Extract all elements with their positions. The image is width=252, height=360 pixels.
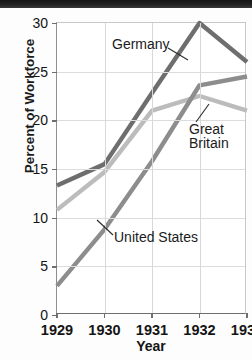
y-axis-tick <box>52 266 57 267</box>
y-axis-tick-label: 25 <box>32 64 48 80</box>
y-axis-tick-label: 20 <box>32 112 48 128</box>
y-axis-tick <box>52 169 57 170</box>
y-axis-tick <box>52 72 57 73</box>
y-axis-tick-label: 0 <box>40 307 48 323</box>
x-axis-tick <box>104 313 105 318</box>
leader-line-germany <box>168 45 194 63</box>
chart-page: Percent of Workforce 0510152025301929193… <box>0 0 252 360</box>
y-axis-tick-label: 30 <box>32 15 48 31</box>
plot-area: 05101520253019291930193119321933 <box>56 22 246 314</box>
y-axis-tick <box>52 23 57 24</box>
y-axis-tick-label: 15 <box>32 161 48 177</box>
x-axis-tick <box>246 313 247 318</box>
gridline-horizontal <box>57 72 245 73</box>
gridline-vertical <box>152 23 153 313</box>
gridline-vertical <box>200 23 201 313</box>
annotation-germany: Germany <box>112 37 170 51</box>
y-axis-tick-label: 5 <box>40 258 48 274</box>
annotation-great-britain-line2: Britain <box>189 135 229 151</box>
y-axis-tick-label: 10 <box>32 210 48 226</box>
x-axis-tick-label: 1929 <box>41 322 73 338</box>
x-axis-tick-label: 1930 <box>88 322 120 338</box>
x-axis-tick <box>199 313 200 318</box>
annotation-united-states: United States <box>114 230 198 244</box>
x-axis-tick-label: 1931 <box>136 322 168 338</box>
x-axis-tick <box>56 313 57 318</box>
y-axis-tick <box>52 218 57 219</box>
gridline-horizontal <box>57 169 245 170</box>
leader-line-united-states <box>97 220 117 240</box>
x-axis-tick-label: 1932 <box>183 322 215 338</box>
leader-line-great-britain <box>196 104 218 124</box>
annotation-great-britain: Great Britain <box>189 122 249 151</box>
gridline-horizontal <box>57 266 245 267</box>
x-axis-tick <box>151 313 152 318</box>
x-axis-tick-label: 1933 <box>231 322 252 338</box>
y-axis-tick <box>52 120 57 121</box>
gridline-vertical <box>105 23 106 313</box>
cropped-header-strip <box>0 0 252 8</box>
x-axis-title: Year <box>56 338 246 354</box>
gridline-horizontal <box>57 218 245 219</box>
